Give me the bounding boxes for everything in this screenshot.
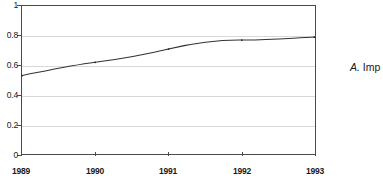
xtick-mark-1991 xyxy=(168,152,169,156)
xtick-mark-1990 xyxy=(95,152,96,156)
figure-caption: A. Imp xyxy=(350,61,380,74)
ytick-label-0.4: 0.4 xyxy=(7,91,18,100)
xtick-label-1993: 1993 xyxy=(295,166,335,176)
xtick-label-1991: 1991 xyxy=(148,166,188,176)
series-path xyxy=(22,37,315,75)
caption-letter: A. xyxy=(350,61,360,73)
data-point-1991 xyxy=(168,48,169,49)
ytick-label-0.8: 0.8 xyxy=(7,31,18,40)
ytick-label-0.6: 0.6 xyxy=(7,61,18,70)
ytick-label-0: 0 xyxy=(13,151,18,160)
xtick-mark-1989 xyxy=(21,152,22,156)
xtick-label-1990: 1990 xyxy=(75,166,115,176)
caption-text: Imp xyxy=(363,61,381,73)
xtick-label-1992: 1992 xyxy=(222,166,262,176)
data-series-line xyxy=(22,6,315,154)
xtick-mark-1993 xyxy=(315,152,316,156)
plot-area xyxy=(21,5,316,155)
data-point-1990 xyxy=(95,62,96,63)
ytick-label-1: 1 xyxy=(13,1,18,10)
xtick-label-1989: 1989 xyxy=(1,166,41,176)
figure-container: 1 0.8 0.6 0.4 0.2 0 1989 1990 1991 1992 … xyxy=(0,0,383,179)
xtick-mark-1992 xyxy=(242,152,243,156)
ytick-label-0.2: 0.2 xyxy=(7,121,18,130)
data-point-1993 xyxy=(314,36,315,37)
data-point-1989 xyxy=(21,75,22,76)
data-point-1992 xyxy=(241,39,242,40)
